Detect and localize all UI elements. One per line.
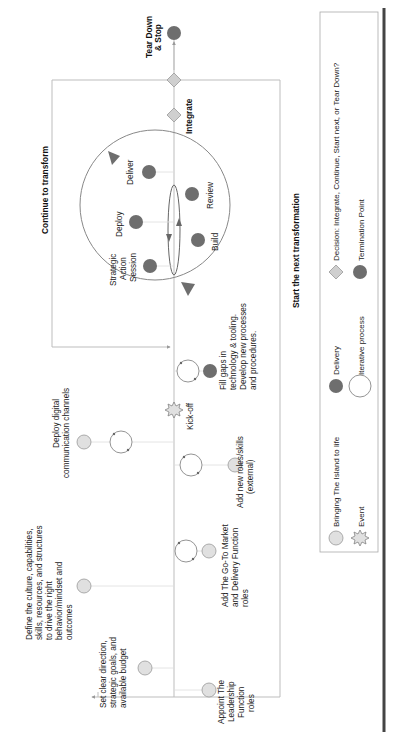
- integrate-label: Integrate: [184, 98, 194, 134]
- legend-bringing-icon: [329, 531, 343, 545]
- legend-termination-icon: [353, 265, 367, 279]
- add-roles-text-1: Add new roles/skills: [236, 436, 245, 508]
- appoint-text-3: Function: [237, 686, 246, 718]
- fill-gaps-text-3: Develop new processes: [239, 303, 248, 390]
- go-to-market-node: [202, 544, 216, 558]
- start-next-label: Start the next transformation: [291, 193, 301, 308]
- fill-gaps-text-2: technology & tooling.: [229, 314, 238, 390]
- fill-gaps-text-4: and procedures.: [249, 331, 258, 390]
- define-culture-text-3: to drive the right: [45, 581, 54, 640]
- deliver-node: [142, 165, 156, 179]
- strategic-node: [143, 259, 157, 273]
- cycle-arrow-bottom: [181, 282, 195, 296]
- define-culture-text-2: skills, resources, and structures: [35, 525, 44, 640]
- deploy-digital-text-2: communication channels: [62, 388, 71, 478]
- set-direction-text-1: Set clear direction,: [99, 640, 108, 708]
- legend-delivery-icon: [329, 379, 343, 393]
- legend-iterative-label: Iterative process: [357, 316, 366, 375]
- go-to-market-text-3: roles: [241, 589, 250, 607]
- iterative-deploy-digital: [110, 431, 132, 453]
- kickoff-event-star: [165, 402, 183, 418]
- build-node: [191, 233, 205, 247]
- deploy-node: [129, 215, 143, 229]
- termination-point: [167, 26, 181, 40]
- review-node: [185, 187, 199, 201]
- legend-iterative-icon: [349, 375, 371, 397]
- transformation-cycle: [80, 130, 230, 296]
- process-diagram: Tear Down & Stop Integrate Continue to t…: [0, 0, 393, 736]
- legend: Bringing The Island to life Event Delive…: [320, 12, 378, 552]
- set-direction-node: [138, 661, 152, 675]
- strategic-label-2: Action: [119, 257, 128, 280]
- define-culture-node: [77, 579, 91, 593]
- legend-termination-label: Termination Point: [357, 198, 366, 261]
- decision-diamond-1: [167, 73, 181, 87]
- decision-diamond-2: [167, 108, 181, 122]
- iterative-fill-gaps: [177, 360, 199, 382]
- define-culture-text-1: Define the culture, capabilities,: [25, 528, 34, 640]
- appoint-node: [202, 683, 216, 697]
- continue-loop: [52, 80, 174, 347]
- legend-bringing-label: Bringing The Island to life: [332, 436, 341, 527]
- fill-gaps-delivery-node: [203, 364, 217, 378]
- deploy-digital-text-1: Deploy digital: [52, 399, 61, 448]
- appoint-text-1: Appoint The: [217, 680, 226, 724]
- iterative-go-to-market: [175, 540, 197, 562]
- appoint-text-2: Leadership: [227, 681, 236, 722]
- go-to-market-text-2: and Delivery Function: [231, 527, 240, 607]
- tear-down-label-2: & Stop: [153, 24, 163, 51]
- add-roles-text-2: (external): [246, 459, 255, 494]
- legend-decision-label: Decision: Integrate, Continue, Start nex…: [332, 62, 341, 261]
- define-culture-text-4: behavior/mindset and: [55, 561, 64, 640]
- set-direction-text-2: strategic goals, and: [109, 637, 118, 708]
- continue-label: Continue to transform: [40, 146, 50, 234]
- appoint-text-4: roles: [247, 694, 256, 712]
- review-label: Review: [206, 182, 215, 209]
- fill-gaps-text-1: Fill gaps in: [219, 350, 228, 390]
- legend-event-label: Event: [357, 506, 366, 527]
- legend-delivery-label: Delivery: [332, 346, 341, 375]
- deliver-label: Deliver: [126, 159, 135, 185]
- go-to-market-text-1: Add The Go-To Market: [221, 524, 230, 607]
- deploy-label: Deploy: [115, 211, 124, 237]
- strategic-label-1: Strategic: [109, 254, 118, 286]
- define-culture-text-5: outcomes: [65, 605, 74, 641]
- kickoff-label: Kick-off: [186, 402, 195, 430]
- iterative-add-roles: [180, 454, 202, 476]
- cycle-arrow-top: [108, 151, 120, 165]
- deploy-digital-node: [77, 435, 91, 449]
- set-direction-text-3: available budget: [119, 648, 128, 708]
- strategic-label-3: Session: [129, 252, 138, 282]
- build-label: Build: [211, 232, 220, 251]
